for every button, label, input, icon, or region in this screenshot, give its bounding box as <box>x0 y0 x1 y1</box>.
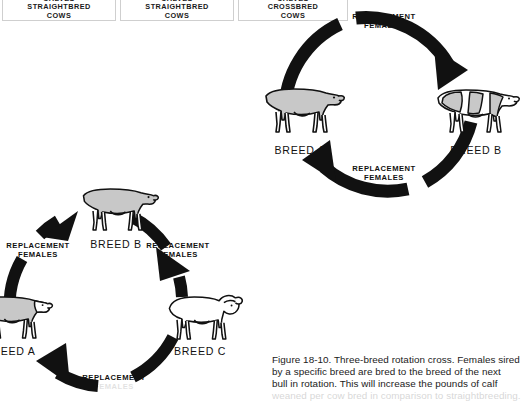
top-box-left: STRAIGHTBRED CALVES STRAIGHTBRED COWS <box>2 0 116 21</box>
breed-b-animal-icon <box>430 82 522 140</box>
caption-line-4: weaned per cow bred in comparison to str… <box>272 390 518 402</box>
breed-b-animal-icon <box>72 182 160 238</box>
two-breed-bottom-label: REPLACEMENT FEMALES <box>300 164 468 183</box>
three-breed-bottom-label: REPLACEMENT FEMALES <box>58 373 170 392</box>
breed-a-animal-icon <box>0 289 56 347</box>
breed-a-label: BREED A <box>252 144 348 156</box>
top-box-left-line3: COWS <box>3 12 115 21</box>
breed-b-label: BREED B <box>428 144 524 156</box>
breed-a-label: BREED A <box>0 345 56 357</box>
breed-b-label: BREED B <box>70 238 162 250</box>
figure-caption: Figure 18-10. Three-breed rotation cross… <box>272 354 518 402</box>
top-box-middle: STRAIGHTBRED CALVES STRAIGHTBRED COWS <box>120 0 234 21</box>
breed-c-animal-icon <box>156 289 244 347</box>
breed-a-animal-icon <box>254 82 346 140</box>
caption-line-2: by a specific breed are bred to the bree… <box>272 366 518 378</box>
three-breed-rotation-cross: REPLACEMENT FEMALES REPLACEMENT FEMALES … <box>0 185 260 399</box>
top-box-middle-line3: COWS <box>121 12 233 21</box>
top-chart-boxes: STRAIGHTBRED CALVES STRAIGHTBRED COWS ST… <box>0 0 262 34</box>
two-breed-top-label: REPLACEMENT FEMALES <box>300 12 468 31</box>
caption-line-3: bull in rotation. This will increase the… <box>272 378 518 390</box>
breed-c-label: BREED C <box>154 345 246 357</box>
two-breed-rotation-cross: REPLACEMENT FEMALES REPLACEMENT FEMALES <box>252 4 520 204</box>
caption-line-1: Figure 18-10. Three-breed rotation cross… <box>272 354 518 366</box>
